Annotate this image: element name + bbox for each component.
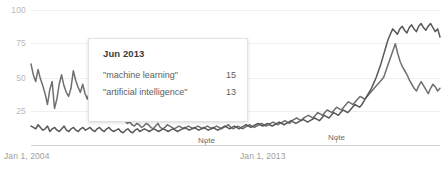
chart-tooltip: Jun 2013 "machine learning" 15 "artifici… bbox=[88, 38, 248, 122]
trends-chart-widget: 100 75 50 25 Note Note Jan 1, 2004 Jan 1… bbox=[0, 0, 443, 171]
x-axis-tick-start: Jan 1, 2004 bbox=[4, 151, 50, 161]
tooltip-term-value: 13 bbox=[220, 87, 236, 98]
tooltip-term-value: 15 bbox=[220, 70, 236, 81]
tooltip-row: "machine learning" 15 bbox=[103, 70, 236, 81]
chart-plot-area[interactable]: 100 75 50 25 Note Note Jan 1, 2004 Jan 1… bbox=[0, 0, 443, 171]
tooltip-term-label: "machine learning" bbox=[103, 70, 178, 81]
tooltip-date-title: Jun 2013 bbox=[103, 48, 236, 59]
x-axis-tick-mid: Jan 1, 2013 bbox=[240, 151, 286, 161]
tooltip-row: "artificial intelligence" 13 bbox=[103, 87, 236, 98]
tooltip-term-label: "artificial intelligence" bbox=[103, 87, 187, 98]
note-marker-1[interactable]: Note bbox=[198, 136, 215, 145]
note-marker-2[interactable]: Note bbox=[328, 133, 345, 142]
